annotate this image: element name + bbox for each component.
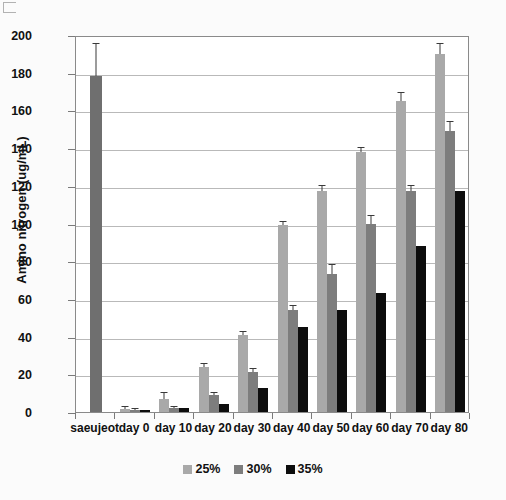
bar-column [140, 37, 150, 412]
error-bar [371, 216, 372, 224]
error-bar [440, 44, 441, 53]
bar [327, 274, 337, 412]
chart-figure: Amino nitrogen (ug/mL) 02040608010012014… [0, 0, 506, 500]
x-axis-tick-label: saeujeot [70, 421, 119, 435]
error-bar-cap [92, 43, 99, 44]
bar-column [406, 37, 416, 412]
bar-group [115, 37, 154, 412]
x-axis-tick-label: day 30 [234, 421, 271, 435]
y-axis-tick-mark [68, 36, 75, 37]
legend-label: 25% [195, 462, 220, 476]
bar [337, 310, 347, 412]
bar [317, 191, 327, 412]
x-axis-tick-label: day 80 [431, 421, 468, 435]
y-axis-tick-mark [68, 111, 75, 112]
bar-column [130, 37, 140, 412]
error-bar [332, 265, 333, 274]
x-axis-tick-mark [154, 413, 155, 419]
bar [248, 372, 258, 412]
error-bar-cap [210, 392, 217, 393]
y-axis-tick-label: 80 [0, 255, 32, 269]
y-axis-tick-label: 160 [0, 104, 32, 118]
bar-column [455, 37, 465, 412]
bar [298, 327, 308, 412]
y-axis-tick-mark [68, 187, 75, 188]
bar [90, 76, 102, 412]
bar-column [396, 37, 406, 412]
error-bar-cap [250, 368, 257, 369]
x-axis-tick-label: day 20 [194, 421, 231, 435]
bar [159, 399, 169, 412]
bar [258, 388, 268, 413]
bar-column [258, 37, 268, 412]
bar-group [352, 37, 391, 412]
error-bar-cap [437, 43, 444, 44]
bar-column [298, 37, 308, 412]
y-axis-tick-mark [68, 225, 75, 226]
error-bar-cap [279, 221, 286, 222]
bar-column [169, 37, 179, 412]
bar [455, 191, 465, 412]
error-bar-cap [122, 406, 129, 407]
bar [209, 395, 219, 412]
x-axis-tick-mark [193, 413, 194, 419]
y-axis-tick-label: 140 [0, 142, 32, 156]
bar-column [238, 37, 248, 412]
x-axis-tick-label: day 60 [352, 421, 389, 435]
bar [435, 54, 445, 412]
legend-swatch [234, 465, 243, 474]
x-axis-tick-label: day 0 [119, 421, 150, 435]
legend-swatch [183, 465, 192, 474]
bar [120, 409, 130, 412]
legend-item: 30% [234, 462, 271, 476]
bar-group [273, 37, 312, 412]
y-axis-tick-mark [68, 300, 75, 301]
legend-label: 30% [246, 462, 271, 476]
bar [219, 404, 229, 412]
y-axis-tick-mark [68, 375, 75, 376]
x-axis-tick-label: day 50 [312, 421, 349, 435]
x-axis-tick-label: day 10 [155, 421, 192, 435]
bar-group [312, 37, 351, 412]
bar-group [391, 37, 430, 412]
legend-swatch [286, 465, 295, 474]
y-axis-tick-label: 100 [0, 218, 32, 232]
bar [179, 408, 189, 412]
error-bar-cap [368, 215, 375, 216]
bar [376, 293, 386, 412]
bar [130, 410, 140, 412]
bar-column [337, 37, 347, 412]
y-axis-tick-mark [68, 262, 75, 263]
bar [199, 367, 209, 412]
bar [238, 335, 248, 412]
bar-group [234, 37, 273, 412]
bar-column [435, 37, 445, 412]
bar [356, 152, 366, 412]
bar [169, 408, 179, 412]
bar-column [416, 37, 426, 412]
bar-column [376, 37, 386, 412]
bar [416, 246, 426, 412]
y-axis-tick-mark [68, 338, 75, 339]
error-bar-cap [397, 92, 404, 93]
bar [278, 225, 288, 412]
y-axis-tick-mark [68, 74, 75, 75]
x-axis-tick-mark [430, 413, 431, 419]
y-axis-tick-label: 40 [0, 331, 32, 345]
y-axis-tick-label: 120 [0, 180, 32, 194]
y-axis-tick-mark [68, 149, 75, 150]
x-axis-tick-mark [469, 413, 470, 419]
bar-column [90, 37, 102, 412]
bar-column [288, 37, 298, 412]
bar-group [76, 37, 115, 412]
chart-legend: 25%30%35% [0, 462, 506, 476]
error-bar-cap [447, 121, 454, 122]
bar-column [445, 37, 455, 412]
y-axis-tick-label: 200 [0, 29, 32, 43]
bar-column [327, 37, 337, 412]
error-bar-cap [132, 408, 139, 409]
bar-column [219, 37, 229, 412]
bar-column [120, 37, 130, 412]
bar-column [356, 37, 366, 412]
x-axis-tick-mark [114, 413, 115, 419]
